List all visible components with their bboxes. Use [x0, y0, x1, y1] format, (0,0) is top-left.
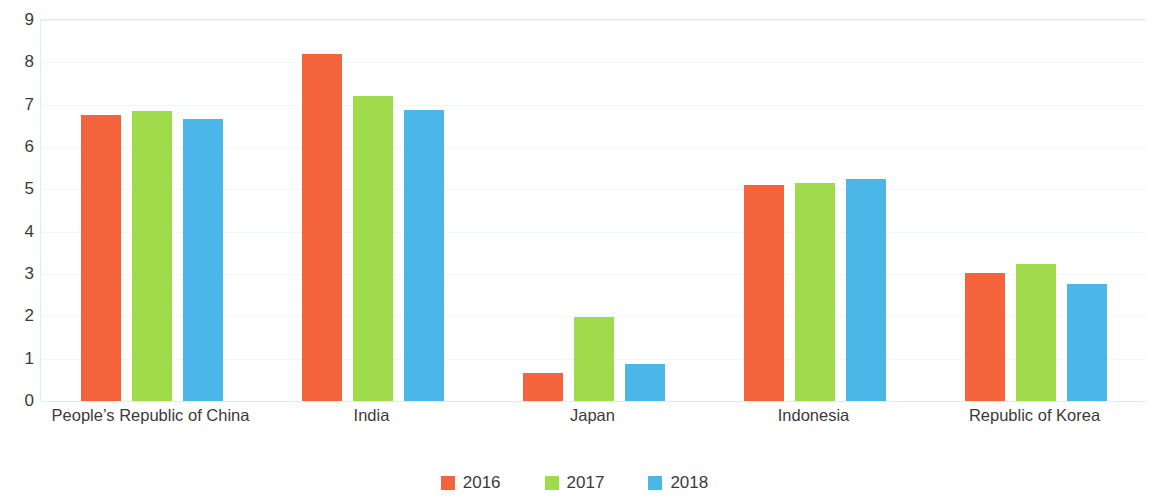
- bar[interactable]: [625, 364, 665, 401]
- y-axis-tick-label: 7: [6, 95, 34, 112]
- y-axis-tick-label: 0: [6, 392, 34, 409]
- y-axis-tick-label: 8: [6, 53, 34, 70]
- y-axis-tick-label: 6: [6, 138, 34, 155]
- bar[interactable]: [302, 54, 342, 401]
- y-axis-tick-label: 2: [6, 307, 34, 324]
- x-axis-category-label: Japan: [570, 406, 615, 426]
- bar[interactable]: [965, 273, 1005, 401]
- legend-item[interactable]: 2018: [648, 474, 708, 491]
- bar-group: [81, 20, 223, 401]
- bar[interactable]: [744, 185, 784, 401]
- bar-group: [302, 20, 444, 401]
- square-swatch-icon: [648, 476, 662, 490]
- square-swatch-icon: [545, 476, 559, 490]
- bar-chart: 0123456789 People’s Republic of ChinaInd…: [0, 0, 1149, 502]
- bar[interactable]: [132, 111, 172, 401]
- bar[interactable]: [795, 183, 835, 401]
- y-axis-tick-label: 1: [6, 349, 34, 366]
- bar[interactable]: [846, 179, 886, 401]
- bar[interactable]: [183, 119, 223, 401]
- y-axis-tick-label: 9: [6, 11, 34, 28]
- x-axis-category-label: India: [354, 406, 390, 426]
- y-axis-tick-label: 4: [6, 222, 34, 239]
- legend-label: 2016: [463, 474, 501, 491]
- bar[interactable]: [1016, 264, 1056, 401]
- x-axis-category-label: Republic of Korea: [969, 406, 1100, 426]
- square-swatch-icon: [441, 476, 455, 490]
- bar-group: [523, 20, 665, 401]
- chart-legend: 201620172018: [0, 474, 1149, 491]
- x-axis-category-label: Indonesia: [778, 406, 850, 426]
- legend-item[interactable]: 2016: [441, 474, 501, 491]
- y-axis: 0123456789: [0, 0, 34, 420]
- bar[interactable]: [353, 96, 393, 401]
- gridline: [41, 401, 1146, 402]
- bar[interactable]: [574, 317, 614, 401]
- legend-item[interactable]: 2017: [545, 474, 605, 491]
- y-axis-tick-label: 5: [6, 180, 34, 197]
- bar-group: [744, 20, 886, 401]
- legend-label: 2017: [567, 474, 605, 491]
- bar[interactable]: [404, 110, 444, 401]
- legend-label: 2018: [670, 474, 708, 491]
- x-axis-labels: People’s Republic of ChinaIndiaJapanIndo…: [40, 406, 1145, 440]
- bar[interactable]: [81, 115, 121, 401]
- plot-area: [40, 19, 1146, 401]
- x-axis-category-label: People’s Republic of China: [52, 406, 250, 426]
- bar-group: [965, 20, 1107, 401]
- bar[interactable]: [1067, 284, 1107, 401]
- bar[interactable]: [523, 373, 563, 401]
- y-axis-tick-label: 3: [6, 265, 34, 282]
